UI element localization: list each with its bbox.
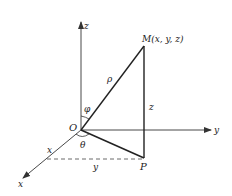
spherical-coordinates-diagram: z y x M(x, y, z) O P ρ z x y φ θ bbox=[0, 0, 232, 196]
point-M-label: M(x, y, z) bbox=[141, 34, 184, 44]
x-proj-label: x bbox=[47, 145, 52, 155]
phi-label: φ bbox=[84, 104, 91, 114]
point-P-label: P bbox=[139, 161, 147, 172]
theta-angle-arc bbox=[76, 134, 89, 137]
y-proj-label: y bbox=[92, 162, 99, 172]
rho-label: ρ bbox=[106, 74, 113, 84]
phi-angle-arc bbox=[81, 116, 89, 119]
origin-label: O bbox=[69, 122, 77, 133]
z-height-label: z bbox=[148, 102, 154, 112]
y-axis-label: y bbox=[213, 125, 220, 135]
rho-segment bbox=[81, 46, 144, 130]
z-axis-label: z bbox=[83, 21, 89, 31]
theta-label: θ bbox=[80, 140, 86, 150]
x-axis-label: x bbox=[18, 179, 23, 189]
op-segment bbox=[81, 130, 144, 158]
